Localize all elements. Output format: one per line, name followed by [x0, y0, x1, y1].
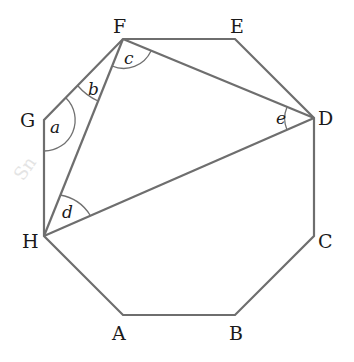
- vertex-label-d: D: [318, 107, 333, 129]
- diagonal-fd: [123, 39, 314, 118]
- angle-label-d: d: [62, 202, 73, 222]
- vertex-label-b: B: [229, 322, 243, 344]
- vertex-label-h: H: [22, 230, 39, 252]
- vertex-label-a: A: [111, 322, 126, 344]
- angle-label-e: e: [276, 108, 286, 128]
- vertex-label-f: F: [113, 15, 126, 37]
- octagon-diagram: Sn F E D C B A H G a b c d e: [0, 0, 354, 362]
- angle-label-b: b: [88, 79, 99, 99]
- angle-label-a: a: [50, 117, 60, 137]
- angle-label-c: c: [124, 48, 134, 68]
- vertex-label-c: C: [318, 230, 333, 252]
- watermark: Sn: [9, 152, 40, 184]
- vertex-label-e: E: [230, 15, 244, 37]
- vertex-label-g: G: [20, 109, 35, 131]
